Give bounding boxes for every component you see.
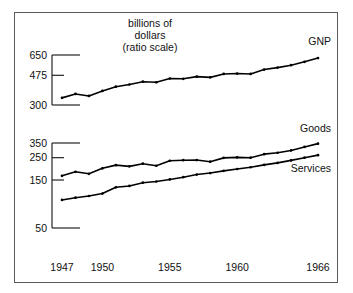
x-tick-label-1966: 1966 xyxy=(306,261,330,273)
data-point-gnp xyxy=(155,81,158,84)
data-point-goods xyxy=(249,156,252,159)
data-point-goods xyxy=(209,160,212,163)
data-point-goods xyxy=(61,175,64,178)
data-point-services xyxy=(155,180,158,183)
data-point-services xyxy=(61,199,64,202)
data-point-gnp xyxy=(168,77,171,80)
data-point-gnp xyxy=(249,73,252,76)
lower-axis-tick-label: 350 xyxy=(29,137,47,149)
data-point-goods xyxy=(195,159,198,162)
series-label-goods: Goods xyxy=(300,122,331,134)
x-tick-label-1955: 1955 xyxy=(158,261,182,273)
data-point-services xyxy=(141,181,144,184)
lower-axis-tick-label: 50 xyxy=(35,222,47,234)
data-series-group xyxy=(61,57,320,202)
data-point-gnp xyxy=(115,85,118,88)
data-point-services xyxy=(209,172,212,175)
series-line-services xyxy=(62,155,318,200)
series-labels: GNPGoodsServices xyxy=(291,35,331,174)
data-point-gnp xyxy=(195,75,198,78)
data-point-goods xyxy=(155,164,158,167)
data-point-goods xyxy=(88,172,91,175)
data-point-services xyxy=(195,173,198,176)
data-point-gnp xyxy=(222,73,225,76)
data-point-gnp xyxy=(263,68,266,71)
data-point-services xyxy=(249,166,252,169)
data-point-goods xyxy=(128,165,131,168)
data-point-goods xyxy=(222,157,225,160)
lower-axis-tick-label: 150 xyxy=(29,174,47,186)
data-point-gnp xyxy=(128,83,131,86)
data-point-goods xyxy=(141,162,144,165)
chart-figure: billions ofdollars(ratio scale) 30047565… xyxy=(0,0,353,293)
series-label-services: Services xyxy=(291,162,331,174)
data-point-goods xyxy=(303,146,306,149)
data-point-gnp xyxy=(209,76,212,79)
data-point-goods xyxy=(74,170,77,173)
data-point-gnp xyxy=(182,77,185,80)
data-point-goods xyxy=(290,149,293,152)
data-point-services xyxy=(88,195,91,198)
data-point-services xyxy=(303,156,306,159)
data-point-goods xyxy=(101,167,104,170)
series-line-gnp xyxy=(62,58,318,98)
data-point-gnp xyxy=(276,66,279,69)
data-point-goods xyxy=(317,142,320,145)
data-point-goods xyxy=(276,151,279,154)
data-point-goods xyxy=(115,164,118,167)
lower-axis-tick-label: 250 xyxy=(29,151,47,163)
x-tick-label-1947: 1947 xyxy=(50,261,74,273)
data-point-services xyxy=(128,185,131,188)
chart-plot: billions ofdollars(ratio scale) 30047565… xyxy=(0,0,353,293)
data-point-services xyxy=(74,196,77,199)
chart-title-line-0: billions of xyxy=(128,17,172,29)
data-point-gnp xyxy=(74,93,77,96)
series-label-gnp: GNP xyxy=(308,35,331,47)
chart-title-line-2: (ratio scale) xyxy=(123,41,178,53)
data-point-goods xyxy=(263,153,266,156)
data-point-goods xyxy=(182,159,185,162)
data-point-services xyxy=(236,168,239,171)
upper-axis-tick-label: 650 xyxy=(29,49,47,61)
data-point-gnp xyxy=(303,60,306,63)
upper-axis-tick-label: 300 xyxy=(29,99,47,111)
data-point-services xyxy=(222,170,225,173)
chart-title-line-1: dollars xyxy=(135,29,166,41)
data-point-gnp xyxy=(290,64,293,67)
data-point-gnp xyxy=(141,80,144,83)
data-point-gnp xyxy=(101,90,104,93)
data-point-gnp xyxy=(88,95,91,98)
data-point-services xyxy=(263,164,266,167)
data-point-gnp xyxy=(236,72,239,75)
data-point-services xyxy=(168,178,171,181)
chart-title: billions ofdollars(ratio scale) xyxy=(123,17,178,53)
data-point-services xyxy=(317,154,320,157)
x-tick-label-1960: 1960 xyxy=(225,261,249,273)
data-point-gnp xyxy=(61,97,64,100)
data-point-services xyxy=(101,192,104,195)
data-point-goods xyxy=(236,156,239,159)
data-point-services xyxy=(276,162,279,165)
x-tick-label-1950: 1950 xyxy=(91,261,115,273)
data-point-services xyxy=(115,186,118,189)
lower-y-axis: 50150250350 xyxy=(29,137,80,234)
data-point-gnp xyxy=(317,57,320,60)
x-axis: 19471950195519601966 xyxy=(50,261,330,273)
upper-y-axis: 300475650 xyxy=(29,49,80,111)
data-point-services xyxy=(182,176,185,179)
upper-axis-tick-label: 475 xyxy=(29,69,47,81)
data-point-goods xyxy=(168,159,171,162)
series-line-goods xyxy=(62,144,318,176)
